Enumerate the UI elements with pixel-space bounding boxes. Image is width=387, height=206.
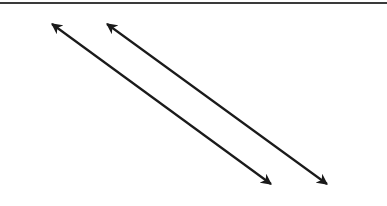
double-arrow-2 <box>107 24 327 184</box>
diagram-canvas <box>0 0 387 206</box>
double-arrow-1 <box>52 24 271 184</box>
